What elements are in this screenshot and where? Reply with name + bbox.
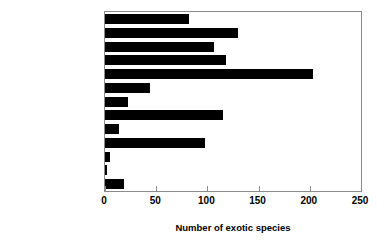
tick-label: 200 [289,195,329,206]
bar [105,83,150,93]
bar [105,97,128,107]
bar [105,124,119,134]
bar-row [105,150,361,164]
bar-row [105,163,361,177]
bar [105,14,189,24]
bar-row [105,108,361,122]
tick-label: 50 [135,195,175,206]
bar [105,179,124,189]
bar [105,138,205,148]
bar [105,110,223,120]
plot-area [104,11,362,192]
bar [105,165,107,175]
bar-row [105,40,361,54]
bar-row [105,12,361,26]
bar [105,42,214,52]
bar-row [105,136,361,150]
bar-row [105,177,361,191]
tick-mark [259,186,260,191]
bar-row [105,53,361,67]
tick-mark [310,186,311,191]
bar-row [105,67,361,81]
bar-chart-figure: AgricultureSoilFireForestryDomestic anim… [0,0,384,245]
tick-label: 150 [238,195,278,206]
bar [105,69,313,79]
tick-label: 0 [84,195,124,206]
x-axis-title: Number of exotic species [104,222,362,233]
tick-mark [156,186,157,191]
tick-label: 100 [186,195,226,206]
bar [105,152,110,162]
bar [105,55,226,65]
bar-row [105,122,361,136]
bar-row [105,26,361,40]
tick-mark [207,186,208,191]
bar [105,28,238,38]
tick-mark [105,186,106,191]
tick-label: 250 [340,195,380,206]
bar-row [105,81,361,95]
bar-row [105,95,361,109]
tick-mark [361,186,362,191]
